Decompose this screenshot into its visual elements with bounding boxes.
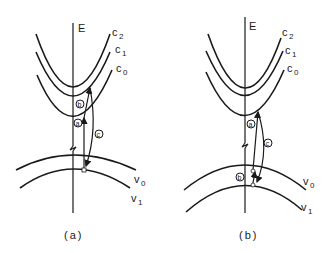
transition-c-arrow <box>257 112 264 182</box>
transition-b-arrow <box>84 88 90 118</box>
panel-caption-b: (b) <box>239 229 258 241</box>
label-v1: v <box>131 192 137 204</box>
axis-break-icon <box>242 143 248 148</box>
panel-a: E c 2 c 1 c 0 v 0 v 1 b a c (a) <box>16 22 146 241</box>
panel-b: E c 2 c 1 c 0 v 0 v 1 a b c (b) <box>184 17 315 241</box>
band-v1 <box>186 185 302 212</box>
svg-text:c: c <box>266 140 270 147</box>
svg-text:b: b <box>238 174 242 181</box>
svg-text:c: c <box>97 131 101 138</box>
axis-break-icon <box>70 146 76 151</box>
band-diagram-figure: E c 2 c 1 c 0 v 0 v 1 b a c (a) E <box>0 0 326 253</box>
svg-text:0: 0 <box>294 68 299 77</box>
svg-text:a: a <box>76 120 80 127</box>
label-v0: v <box>134 173 140 185</box>
panel-caption-a: (a) <box>64 229 83 241</box>
label-v1: v <box>301 201 307 213</box>
transition-b-arrow <box>253 172 255 183</box>
svg-text:0: 0 <box>123 68 128 77</box>
label-c1: c <box>285 44 291 56</box>
label-c2: c <box>112 26 118 38</box>
svg-text:0: 0 <box>310 181 315 190</box>
label-c0: c <box>116 62 122 74</box>
svg-text:1: 1 <box>138 198 143 207</box>
label-c0: c <box>287 62 293 74</box>
svg-text:1: 1 <box>308 207 313 216</box>
band-v1 <box>20 169 130 188</box>
svg-text:1: 1 <box>122 49 127 58</box>
svg-text:0: 0 <box>141 179 146 188</box>
energy-axis-label: E <box>249 20 256 32</box>
energy-axis-label: E <box>78 22 85 34</box>
label-v0: v <box>303 175 309 187</box>
svg-text:a: a <box>249 121 253 128</box>
state-marker-lower <box>251 183 255 187</box>
label-c1: c <box>115 43 121 55</box>
label-c2: c <box>282 26 288 38</box>
state-marker-upper <box>251 169 255 173</box>
initial-state-marker <box>82 168 86 172</box>
svg-text:2: 2 <box>119 32 124 41</box>
band-v0 <box>16 155 136 170</box>
svg-text:2: 2 <box>289 32 294 41</box>
svg-text:b: b <box>78 101 82 108</box>
svg-text:1: 1 <box>292 50 297 59</box>
